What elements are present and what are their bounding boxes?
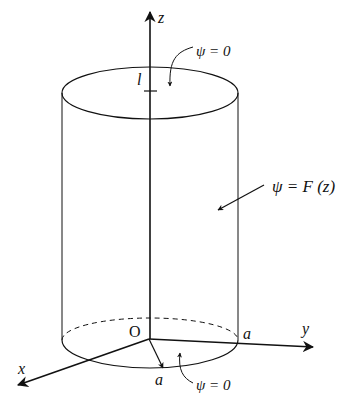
top-annotation-arrow: [170, 47, 193, 86]
cylinder-bottom-front: [62, 340, 238, 368]
x-axis: [18, 339, 149, 385]
z-axis-label: z: [157, 9, 165, 26]
y-axis-label: y: [300, 320, 310, 338]
height-label: l: [137, 71, 142, 88]
radius-arrow: [149, 339, 163, 368]
radius-label-y: a: [243, 325, 251, 342]
y-axis: [149, 339, 313, 347]
cylinder-diagram: z l y a x O a ψ = 0 ψ = F (z) ψ = 0: [0, 0, 348, 403]
bottom-annotation-arrow: [180, 353, 193, 383]
bottom-annotation: ψ = 0: [196, 377, 231, 393]
x-axis-label: x: [17, 360, 25, 377]
radius-label-x: a: [155, 371, 163, 388]
side-annotation-arrow: [218, 185, 264, 210]
top-annotation: ψ = 0: [196, 43, 231, 59]
origin-label: O: [129, 323, 141, 340]
side-annotation: ψ = F (z): [272, 177, 335, 196]
